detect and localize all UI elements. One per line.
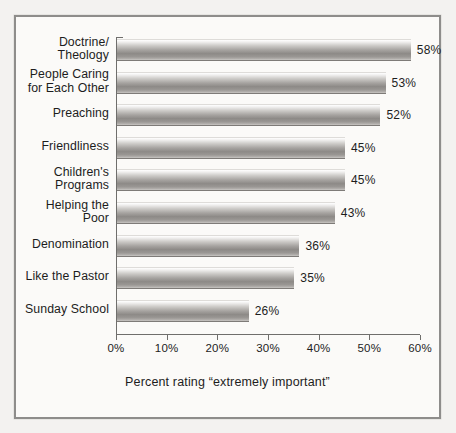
category-label: Preaching — [53, 107, 109, 121]
bar — [117, 39, 411, 61]
plot-area: 58%53%52%45%45%43%36%35%26% 0%10%20%30%4… — [116, 37, 420, 334]
x-tick — [369, 335, 370, 340]
x-tick — [116, 335, 117, 340]
x-tick — [217, 335, 218, 340]
bar — [117, 235, 299, 257]
x-tick — [268, 335, 269, 340]
bar-row: 45% — [117, 137, 421, 159]
bar — [117, 169, 345, 191]
bar-value-label: 26% — [255, 304, 280, 318]
bar — [117, 104, 380, 126]
x-tick-label: 0% — [107, 342, 124, 354]
x-tick-label: 40% — [307, 342, 331, 354]
bar-value-label: 53% — [392, 75, 417, 89]
x-tick — [167, 335, 168, 340]
bar — [117, 267, 294, 289]
x-tick-label: 20% — [206, 342, 230, 354]
bar-row: 45% — [117, 169, 421, 191]
x-tick-label: 30% — [256, 342, 280, 354]
bar — [117, 72, 386, 94]
chart-figure: Doctrine/ TheologyPeople Caring for Each… — [14, 15, 441, 419]
bar-value-label: 36% — [305, 238, 330, 252]
category-label: Friendliness — [42, 140, 110, 154]
bar-row: 58% — [117, 39, 421, 61]
bar-row: 26% — [117, 300, 421, 322]
category-label: Doctrine/ Theology — [58, 36, 109, 63]
bar-row: 43% — [117, 202, 421, 224]
bar-value-label: 35% — [300, 271, 325, 285]
x-tick-label: 50% — [358, 342, 382, 354]
bar-row: 52% — [117, 104, 421, 126]
y-axis-cap — [116, 37, 123, 38]
category-label: Sunday School — [25, 303, 109, 317]
x-tick — [420, 335, 421, 340]
category-label: Like the Pastor — [25, 270, 109, 284]
bar-value-label: 58% — [417, 43, 442, 57]
category-label: Helping the Poor — [46, 199, 109, 226]
x-tick-label: 10% — [155, 342, 179, 354]
x-axis-title: Percent rating “extremely important” — [16, 375, 439, 389]
category-label: People Caring for Each Other — [28, 68, 109, 95]
x-tick — [319, 335, 320, 340]
category-axis-labels: Doctrine/ TheologyPeople Caring for Each… — [16, 37, 109, 334]
bar-row: 36% — [117, 235, 421, 257]
bar — [117, 202, 335, 224]
x-tick-label: 60% — [408, 342, 432, 354]
category-label: Children's Programs — [54, 166, 109, 193]
bar-row: 35% — [117, 267, 421, 289]
bar-value-label: 45% — [351, 141, 376, 155]
bar-value-label: 43% — [341, 206, 366, 220]
bar-value-label: 52% — [386, 108, 411, 122]
bar-row: 53% — [117, 72, 421, 94]
bar — [117, 300, 249, 322]
category-label: Denomination — [32, 238, 109, 252]
bar-value-label: 45% — [351, 173, 376, 187]
bar — [117, 137, 345, 159]
